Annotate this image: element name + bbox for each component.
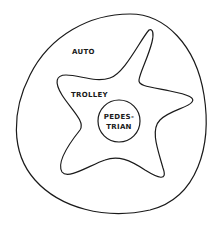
- auto-label: AUTO: [72, 48, 95, 56]
- trolley-label: TROLLEY: [71, 91, 109, 99]
- pedestrian-label-line1: PEDES-: [104, 113, 134, 121]
- nested-zones-diagram: AUTO TROLLEY PEDES- TRIAN: [0, 0, 223, 227]
- pedestrian-zone-boundary: [98, 100, 140, 142]
- pedestrian-label-line2: TRIAN: [106, 123, 132, 131]
